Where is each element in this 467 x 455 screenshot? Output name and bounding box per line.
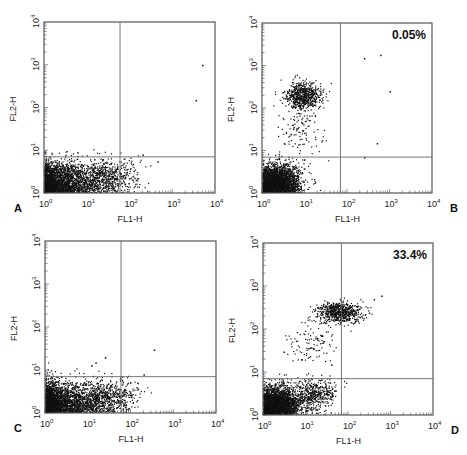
event-dots (263, 296, 383, 417)
x-tick-label: 100 (40, 418, 54, 429)
x-tick-label: 101 (82, 198, 96, 209)
x-tick-label: 102 (126, 418, 140, 429)
y-tick-label: 101 (31, 362, 42, 376)
y-tick-label: 104 (248, 15, 259, 29)
quadrant-percentage: 0.05% (392, 28, 426, 42)
y-tick-label: 102 (249, 321, 260, 335)
plot-frame (262, 23, 432, 193)
y-axis-title: FL2-H (9, 316, 19, 341)
x-tick-label: 103 (168, 418, 182, 429)
x-tick-label: 103 (386, 420, 400, 431)
dot-plot-panel-d: 100101102103104100101102103104FL1-HFL2-H… (227, 235, 459, 446)
panel-letter: B (450, 202, 458, 214)
dot-plot-panel-a: 100101102103104100101102103104FL1-HFL2-H… (8, 14, 224, 224)
axis-ticks (263, 245, 431, 415)
y-tick-label: 102 (30, 99, 41, 113)
y-tick-label: 101 (249, 364, 260, 378)
axis-ticks (44, 24, 213, 193)
event-dots (262, 55, 391, 195)
y-tick-label: 100 (249, 407, 260, 421)
quadrant-percentage: 33.4% (393, 248, 427, 262)
dot-plot-panel-c: 100101102103104100101102103104FL1-HFL2-H… (9, 233, 225, 444)
x-tick-label: 104 (428, 420, 442, 431)
x-tick-label: 103 (385, 198, 399, 209)
y-tick-label: 100 (248, 185, 259, 199)
y-axis-title: FL2-H (227, 318, 237, 343)
x-axis-title: FL1-H (119, 434, 144, 444)
axis-ticks (262, 25, 430, 193)
panel-letter: C (14, 422, 22, 434)
y-tick-label: 102 (248, 100, 259, 114)
x-tick-label: 101 (300, 198, 314, 209)
x-axis-title: FL1-H (118, 214, 143, 224)
event-dots (44, 65, 204, 194)
x-tick-label: 104 (210, 198, 224, 209)
y-axis-title: FL2-H (226, 97, 236, 122)
x-axis-title: FL1-H (336, 436, 361, 446)
x-tick-label: 100 (257, 198, 271, 209)
plot-frame (44, 22, 215, 193)
x-tick-label: 101 (83, 418, 97, 429)
y-tick-label: 104 (249, 235, 260, 249)
y-tick-label: 103 (30, 57, 41, 71)
y-tick-label: 103 (249, 278, 260, 292)
y-tick-label: 100 (31, 405, 42, 419)
x-tick-label: 102 (125, 198, 139, 209)
figure-canvas: 100101102103104100101102103104FL1-HFL2-H… (0, 0, 467, 455)
event-dots (45, 350, 155, 415)
y-tick-label: 101 (248, 142, 259, 156)
x-tick-label: 101 (301, 420, 315, 431)
x-tick-label: 103 (167, 198, 181, 209)
y-tick-label: 100 (30, 185, 41, 199)
x-tick-label: 102 (342, 198, 356, 209)
x-tick-label: 100 (258, 420, 272, 431)
y-tick-label: 104 (30, 14, 41, 28)
y-axis-title: FL2-H (8, 96, 18, 121)
axis-ticks (45, 243, 214, 413)
x-tick-label: 104 (427, 198, 441, 209)
y-tick-label: 104 (31, 233, 42, 247)
y-tick-label: 103 (31, 276, 42, 290)
y-tick-label: 102 (31, 319, 42, 333)
x-axis-title: FL1-H (335, 214, 360, 224)
y-tick-label: 103 (248, 57, 259, 71)
x-tick-label: 104 (211, 418, 225, 429)
dot-plot-panel-b: 100101102103104100101102103104FL1-HFL2-H… (226, 15, 458, 224)
x-tick-label: 100 (39, 198, 53, 209)
panel-letter: D (451, 424, 459, 436)
x-tick-label: 102 (343, 420, 357, 431)
y-tick-label: 101 (30, 142, 41, 156)
plot-frame (45, 241, 216, 413)
panel-letter: A (14, 202, 22, 214)
